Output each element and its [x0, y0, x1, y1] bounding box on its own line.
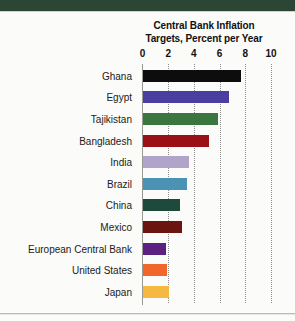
bar-row: Japan [0, 281, 295, 303]
bar-ghana [143, 70, 241, 82]
bar-united-states [143, 264, 167, 276]
bar-egypt [143, 91, 229, 103]
bar-row: Ghana [0, 65, 295, 87]
bar-mexico [143, 221, 182, 233]
bar-india [143, 156, 189, 168]
page-bottom-rule-shadow [0, 314, 295, 315]
bar-brazil [143, 178, 187, 190]
bar-row: Mexico [0, 216, 295, 238]
bar-row: Egypt [0, 87, 295, 109]
bar-row: Brazil [0, 173, 295, 195]
bar-row: Tajikistan [0, 108, 295, 130]
category-label-united-states: United States [72, 265, 132, 276]
bar-china [143, 199, 180, 211]
category-label-bangladesh: Bangladesh [79, 135, 132, 146]
x-tick-label-6: 6 [217, 48, 223, 59]
category-label-ghana: Ghana [102, 70, 132, 81]
bar-bangladesh [143, 135, 209, 147]
bar-row: Bangladesh [0, 130, 295, 152]
bar-row: India [0, 151, 295, 173]
plot-area: 0246810 GhanaEgyptTajikistanBangladeshIn… [0, 12, 295, 312]
category-label-mexico: Mexico [100, 221, 132, 232]
x-tick-label-8: 8 [243, 48, 249, 59]
bar-japan [143, 286, 169, 298]
x-tick-label-0: 0 [140, 48, 146, 59]
category-label-india: India [110, 157, 132, 168]
bar-tajikistan [143, 113, 218, 125]
category-label-egypt: Egypt [106, 92, 132, 103]
bar-row: China [0, 195, 295, 217]
category-label-european-central-bank: European Central Bank [28, 243, 132, 254]
bar-row: European Central Bank [0, 238, 295, 260]
inflation-targets-bar-chart: Central Bank Inflation Targets, Percent … [0, 12, 295, 312]
x-tick-label-10: 10 [265, 48, 276, 59]
category-label-brazil: Brazil [107, 178, 132, 189]
bar-rows: GhanaEgyptTajikistanBangladeshIndiaBrazi… [0, 65, 295, 303]
bar-european-central-bank [143, 243, 166, 255]
page-top-band [0, 0, 295, 11]
page-canvas: Central Bank Inflation Targets, Percent … [0, 0, 295, 321]
x-tick-label-2: 2 [165, 48, 171, 59]
category-label-china: China [106, 200, 132, 211]
x-tick-label-4: 4 [191, 48, 197, 59]
category-label-tajikistan: Tajikistan [91, 113, 132, 124]
bar-row: United States [0, 259, 295, 281]
category-label-japan: Japan [105, 286, 132, 297]
